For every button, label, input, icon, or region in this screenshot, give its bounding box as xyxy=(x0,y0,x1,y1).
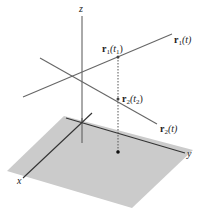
projection-point xyxy=(116,150,120,154)
x-axis-label: x xyxy=(16,175,22,186)
point-r2-t2-label: r2(t2) xyxy=(122,93,143,106)
y-axis-label: y xyxy=(186,148,192,159)
diagram-canvas: z x y r1(t) r1(t1) r2(t2) r2(t) xyxy=(0,0,200,210)
curve-r1 xyxy=(23,34,172,97)
curve-r1-label: r1(t) xyxy=(174,34,192,47)
z-axis-label: z xyxy=(78,3,83,14)
curve-r2 xyxy=(40,58,157,124)
point-r1-t1-label: r1(t1) xyxy=(102,43,123,56)
curve-r2-label: r2(t) xyxy=(160,123,178,136)
r2-t2-point xyxy=(117,98,120,101)
